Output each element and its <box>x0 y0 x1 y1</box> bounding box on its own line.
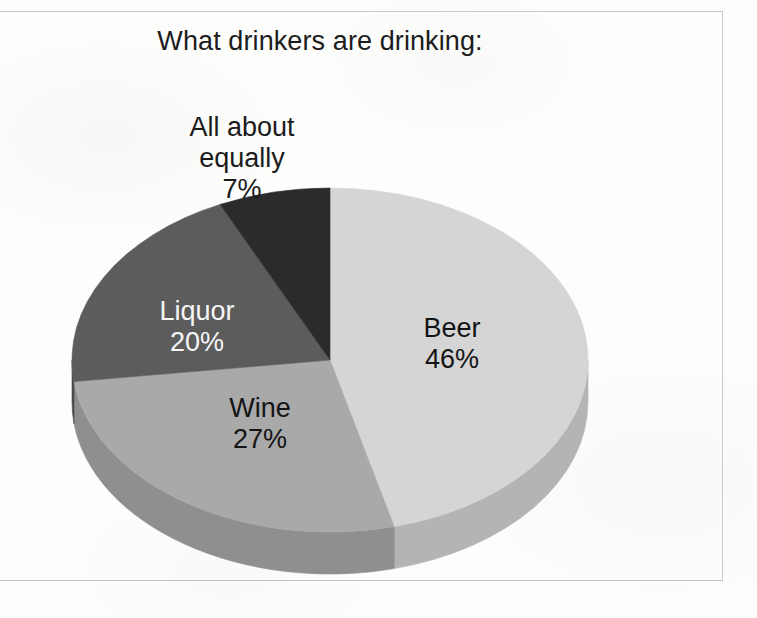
pie-chart-page: What drinkers are drinking: All about eq… <box>0 0 757 618</box>
pie-top-face <box>72 188 588 532</box>
pie-chart-graphic <box>0 0 757 618</box>
